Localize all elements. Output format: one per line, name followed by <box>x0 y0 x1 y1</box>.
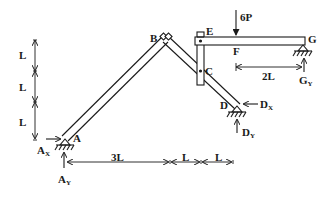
dim-label-l1: L <box>182 152 189 163</box>
reaction-label-dx: DX <box>260 99 273 112</box>
dim-label-v1: L <box>19 50 26 61</box>
load-label: 6P <box>240 12 252 23</box>
reaction-label-ax: AX <box>37 145 50 158</box>
horizontal-dimension-lines <box>68 160 233 164</box>
dim-label-2l: 2L <box>262 71 275 82</box>
member-ab <box>62 36 168 141</box>
point-label-f: F <box>233 46 240 57</box>
support-a-icon <box>55 139 74 150</box>
reaction-label-ay: AY <box>58 174 71 187</box>
support-g-icon <box>293 45 312 56</box>
dim-label-3l: 3L <box>111 152 124 163</box>
point-label-a: A <box>73 133 81 144</box>
reaction-label-dy: DY <box>242 127 255 140</box>
point-label-d: D <box>220 100 228 111</box>
beam-eg <box>195 37 305 45</box>
vertical-dimension-lines <box>33 40 37 140</box>
dim-label-v3: L <box>19 117 26 128</box>
pin-c-icon <box>200 70 202 72</box>
support-d-icon <box>227 106 246 117</box>
pin-b-icon <box>160 33 172 40</box>
dim-label-l2: L <box>215 152 222 163</box>
pin-e-icon <box>200 40 202 42</box>
reaction-label-gy: GY <box>299 75 313 88</box>
point-label-b: B <box>150 33 157 44</box>
point-label-c: C <box>205 66 213 77</box>
frame-diagram <box>0 0 334 197</box>
point-label-g: G <box>308 34 317 45</box>
dim-label-v2: L <box>19 82 26 93</box>
point-label-e: E <box>206 26 213 37</box>
